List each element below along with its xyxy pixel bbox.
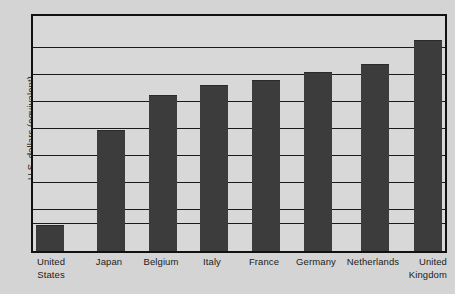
- plot-area: [31, 14, 447, 253]
- plot-inner: [33, 16, 445, 251]
- x-axis-label-line-2: States: [23, 269, 79, 282]
- x-axis-label-japan: Japan: [81, 256, 137, 269]
- bar-belgium: [149, 95, 177, 251]
- x-axis-label-line-1: France: [249, 256, 279, 267]
- x-axis-label-line-1: United: [37, 256, 65, 267]
- x-axis-label-line-2: Kingdom: [391, 269, 447, 282]
- bar-germany: [304, 72, 332, 251]
- x-axis-label-belgium: Belgium: [131, 256, 191, 269]
- x-axis-label-line-1: United: [419, 256, 447, 267]
- bar-chart-figure: U.S. dollars (equivalent) UnitedStatesJa…: [0, 0, 455, 294]
- bar-japan: [97, 130, 125, 251]
- bar-united-kingdom: [414, 40, 442, 251]
- x-axis-label-united-states: UnitedStates: [23, 256, 79, 281]
- bar-france: [252, 80, 280, 251]
- x-axis-label-united-kingdom: UnitedKingdom: [391, 256, 447, 281]
- x-axis-label-line-1: Italy: [203, 256, 221, 267]
- bar-united-states: [36, 225, 64, 251]
- x-axis-label-line-1: Japan: [96, 256, 122, 267]
- x-axis-label-line-1: Germany: [296, 256, 336, 267]
- x-axis-labels: UnitedStatesJapanBelgiumItalyFranceGerma…: [31, 256, 447, 292]
- bar-netherlands: [361, 64, 389, 251]
- x-axis-label-italy: Italy: [184, 256, 240, 269]
- bars-layer: [33, 16, 445, 251]
- bar-italy: [200, 85, 228, 251]
- x-axis-label-line-1: Belgium: [143, 256, 178, 267]
